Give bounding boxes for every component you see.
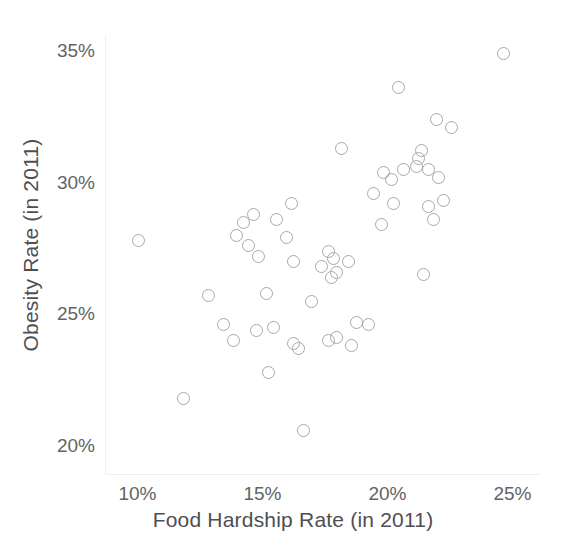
x-tick-label: 25% xyxy=(473,483,553,505)
data-point xyxy=(287,255,300,268)
y-tick-label: 30% xyxy=(35,172,95,194)
data-point xyxy=(285,197,298,210)
data-point xyxy=(280,231,293,244)
data-point xyxy=(415,144,428,157)
data-point xyxy=(292,342,305,355)
data-point xyxy=(397,163,410,176)
data-point xyxy=(260,287,273,300)
data-point xyxy=(375,218,388,231)
x-tick-label: 20% xyxy=(348,483,428,505)
data-point xyxy=(427,213,440,226)
data-point xyxy=(335,142,348,155)
data-point xyxy=(202,289,215,302)
data-point xyxy=(445,121,458,134)
data-point xyxy=(350,316,363,329)
data-point xyxy=(330,266,343,279)
y-axis-title: Obesity Rate (in 2011) xyxy=(19,45,43,445)
data-point xyxy=(385,173,398,186)
data-point xyxy=(267,321,280,334)
data-point xyxy=(392,81,405,94)
x-axis-ticks: 10%15%20%25% xyxy=(105,483,540,509)
data-point xyxy=(342,255,355,268)
data-point xyxy=(177,392,190,405)
data-point xyxy=(362,318,375,331)
x-tick-label: 10% xyxy=(98,483,178,505)
data-point xyxy=(367,187,380,200)
data-point xyxy=(270,213,283,226)
data-point xyxy=(330,331,343,344)
y-tick-label: 25% xyxy=(35,303,95,325)
data-point xyxy=(230,229,243,242)
data-points-layer xyxy=(106,35,540,474)
x-tick-label: 15% xyxy=(223,483,303,505)
data-point xyxy=(432,171,445,184)
data-point xyxy=(387,197,400,210)
x-axis-title: Food Hardship Rate (in 2011) xyxy=(0,508,586,532)
data-point xyxy=(327,252,340,265)
scatter-chart: 20%25%30%35% 10%15%20%25% Food Hardship … xyxy=(0,0,586,558)
data-point xyxy=(345,339,358,352)
data-point xyxy=(422,200,435,213)
data-point xyxy=(262,366,275,379)
data-point xyxy=(132,234,145,247)
y-tick-label: 35% xyxy=(35,40,95,62)
y-tick-label: 20% xyxy=(35,435,95,457)
data-point xyxy=(497,47,510,60)
data-point xyxy=(250,324,263,337)
data-point xyxy=(315,260,328,273)
data-point xyxy=(252,250,265,263)
data-point xyxy=(417,268,430,281)
plot-area xyxy=(105,35,540,475)
data-point xyxy=(247,208,260,221)
data-point xyxy=(217,318,230,331)
data-point xyxy=(227,334,240,347)
data-point xyxy=(242,239,255,252)
data-point xyxy=(430,113,443,126)
data-point xyxy=(297,424,310,437)
data-point xyxy=(437,194,450,207)
data-point xyxy=(305,295,318,308)
